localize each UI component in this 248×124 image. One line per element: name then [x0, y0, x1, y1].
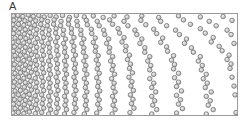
particle [97, 89, 102, 94]
particle [40, 26, 45, 31]
particle [132, 106, 137, 111]
particle [48, 81, 53, 86]
particle [12, 45, 17, 50]
particle [36, 14, 41, 18]
particle [22, 58, 27, 63]
particle [63, 103, 68, 108]
particle [17, 101, 22, 106]
particle [102, 32, 107, 37]
particle [47, 28, 52, 33]
particle [52, 18, 57, 23]
particle [51, 22, 56, 27]
particle [106, 37, 111, 42]
particle [154, 31, 159, 36]
particle [107, 50, 112, 55]
particle [176, 80, 181, 85]
particle [54, 93, 59, 98]
particle [53, 40, 58, 45]
particle [143, 46, 148, 51]
particle [111, 103, 116, 108]
particle [176, 14, 181, 18]
particle [154, 107, 159, 112]
particle [199, 68, 204, 73]
particle [111, 63, 116, 68]
particle [74, 106, 79, 111]
particle [12, 67, 16, 72]
particle [41, 88, 46, 93]
particle [23, 63, 28, 68]
particle [174, 111, 179, 115]
particle [228, 66, 233, 71]
particle [174, 84, 179, 89]
particle [72, 35, 77, 40]
particle [95, 93, 100, 98]
particle [22, 111, 27, 115]
particle [108, 59, 113, 64]
particle [112, 99, 117, 104]
particle [66, 22, 71, 27]
particle [127, 75, 132, 80]
particle [48, 107, 53, 112]
particle [18, 62, 23, 67]
particle [176, 102, 181, 107]
particle [22, 76, 27, 81]
particle [12, 40, 15, 45]
particle [83, 103, 88, 108]
particle [93, 36, 98, 41]
particle [27, 57, 32, 62]
particle [46, 41, 51, 46]
particle [54, 57, 59, 62]
particle [35, 80, 40, 85]
particle [84, 99, 89, 104]
particle [164, 24, 169, 29]
particle [48, 54, 53, 59]
particle [55, 44, 60, 49]
particle [203, 31, 208, 36]
particle [74, 14, 79, 18]
particle [127, 66, 132, 71]
particle [109, 76, 114, 81]
particle [18, 26, 23, 31]
particle [61, 41, 66, 46]
particle [72, 93, 77, 98]
particle [17, 84, 22, 89]
particle [13, 89, 18, 94]
particle [110, 112, 115, 115]
particle [79, 28, 84, 33]
particle [39, 110, 44, 115]
particle [113, 107, 118, 112]
particle [151, 81, 156, 86]
particle [22, 32, 27, 37]
particle [182, 41, 187, 46]
particle [62, 112, 67, 115]
particle [16, 75, 21, 80]
particle [151, 27, 156, 32]
particle [63, 85, 68, 90]
particle [229, 62, 234, 67]
particle [12, 58, 15, 63]
particle [22, 41, 27, 46]
particle [72, 84, 77, 89]
particle [66, 18, 71, 23]
particle [152, 99, 157, 104]
particle [184, 37, 189, 42]
particle [62, 50, 67, 55]
particle [12, 111, 15, 115]
particle [96, 62, 101, 67]
particle [33, 58, 38, 63]
particle [64, 81, 69, 86]
particle [85, 107, 90, 112]
particle [172, 75, 177, 80]
particle [54, 84, 59, 89]
particle [56, 88, 61, 93]
particle [64, 54, 69, 59]
particle [85, 23, 90, 28]
particle [29, 52, 34, 57]
particle [149, 94, 154, 99]
particle [220, 49, 225, 54]
particle [129, 84, 134, 89]
particle [55, 62, 60, 67]
particle [28, 17, 33, 22]
particle [28, 101, 33, 106]
particle [22, 67, 27, 72]
